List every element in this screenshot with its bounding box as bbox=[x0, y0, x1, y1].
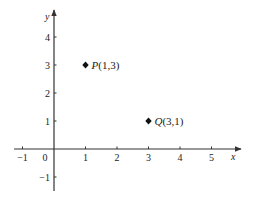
ticks: −112345−112340 bbox=[17, 32, 214, 183]
x-tick-label: 1 bbox=[83, 152, 88, 163]
x-tick-label: −1 bbox=[17, 152, 28, 163]
origin-label: 0 bbox=[43, 152, 48, 163]
point-label: P(1,3) bbox=[91, 59, 120, 72]
y-tick-label: 2 bbox=[45, 88, 50, 99]
y-tick-label: 1 bbox=[45, 116, 50, 127]
diamond-marker-icon bbox=[82, 62, 88, 69]
y-tick-label: 4 bbox=[45, 32, 50, 43]
x-axis-label: x bbox=[230, 151, 236, 162]
x-tick-label: 5 bbox=[209, 152, 214, 163]
point-p: P(1,3) bbox=[82, 59, 119, 72]
x-tick-label: 4 bbox=[178, 152, 183, 163]
y-axis-label: y bbox=[44, 11, 50, 22]
y-tick-label: −1 bbox=[39, 172, 50, 183]
diamond-marker-icon bbox=[145, 118, 151, 125]
coordinate-plane: xy −112345−112340 P(1,3)Q(3,1) bbox=[0, 0, 253, 199]
x-tick-label: 3 bbox=[146, 152, 151, 163]
points: P(1,3)Q(3,1) bbox=[82, 59, 184, 128]
x-tick-label: 2 bbox=[115, 152, 120, 163]
y-tick-label: 3 bbox=[45, 60, 50, 71]
point-label: Q(3,1) bbox=[155, 115, 184, 128]
point-q: Q(3,1) bbox=[145, 115, 184, 128]
